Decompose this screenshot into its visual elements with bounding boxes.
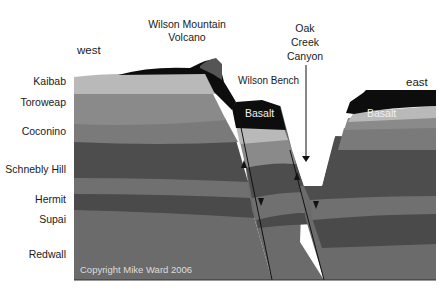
label-west: west [77,44,101,56]
label-volcano-1: Wilson Mountain [132,18,242,30]
west-block [74,58,272,280]
label-supai: Supai [0,213,66,225]
label-canyon-3: Canyon [280,50,330,62]
label-schnebly-hill: Schnebly Hill [0,163,66,175]
label-toroweap: Toroweap [0,96,66,108]
label-wilson-bench: Wilson Bench [238,75,299,86]
label-kaibab: Kaibab [0,75,66,87]
label-canyon-1: Oak [280,22,330,34]
label-volcano-2: Volcano [132,31,242,43]
copyright-text: Copyright Mike Ward 2006 [80,264,192,275]
label-basalt-left: Basalt [245,107,274,119]
label-redwall: Redwall [0,248,66,260]
label-basalt-right: Basalt [367,107,396,119]
label-hermit: Hermit [0,193,66,205]
label-east: east [406,76,428,88]
label-canyon-2: Creek [280,36,330,48]
label-coconino: Coconino [0,125,66,137]
